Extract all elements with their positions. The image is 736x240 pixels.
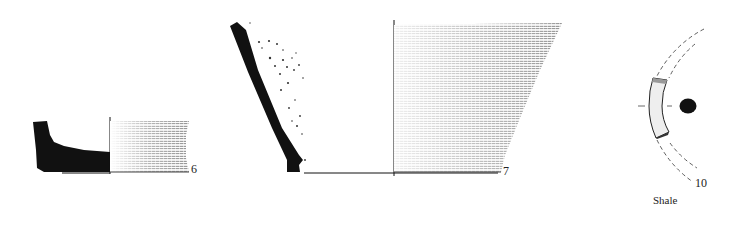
object-10-drawing xyxy=(638,29,704,182)
vessel-7-section xyxy=(230,22,303,172)
object-number-10: 10 xyxy=(695,176,707,191)
object-number-7: 7 xyxy=(503,164,509,179)
object-number-6: 6 xyxy=(191,162,197,177)
vessel-6-section xyxy=(33,121,110,172)
ring-fragment-elevation xyxy=(649,78,669,138)
ring-section xyxy=(680,99,697,114)
material-label-shale: Shale xyxy=(653,194,677,206)
vessel-6-drawing xyxy=(33,117,189,174)
vessel-7-drawing xyxy=(230,20,562,176)
